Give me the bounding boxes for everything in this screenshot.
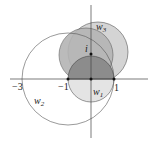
- label-w1-w: w: [93, 86, 100, 97]
- label-w3: w3: [96, 22, 106, 34]
- label-w2-w: w: [34, 95, 41, 106]
- diagram-canvas: −3 −1 1 i w3 w1 w2: [0, 0, 160, 146]
- point-origin: [90, 78, 93, 81]
- circles-figure: [0, 0, 160, 146]
- point-one: [113, 78, 116, 81]
- label-w1: w1: [93, 87, 103, 99]
- tick-label-minus1: −1: [58, 82, 69, 92]
- tick-label-one: 1: [114, 83, 119, 93]
- label-w2-sub: 2: [41, 100, 45, 108]
- label-w3-w: w: [96, 21, 103, 32]
- label-w2: w2: [34, 96, 44, 108]
- label-w1-sub: 1: [100, 91, 104, 99]
- point-i: [90, 53, 93, 56]
- label-i: i: [85, 44, 88, 54]
- tick-label-minus3: −3: [12, 82, 23, 92]
- label-w3-sub: 3: [103, 26, 107, 34]
